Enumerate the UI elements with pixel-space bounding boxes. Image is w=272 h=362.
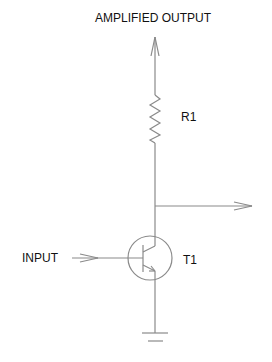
input-arrow xyxy=(72,254,143,262)
schematic-drawing xyxy=(0,0,272,362)
resistor-label: R1 xyxy=(181,111,196,123)
output-label: AMPLIFIED OUTPUT xyxy=(95,12,211,24)
output-branch-arrow xyxy=(155,202,252,210)
transistor-label: T1 xyxy=(183,254,197,266)
circuit-diagram: AMPLIFIED OUTPUT R1 T1 INPUT xyxy=(0,0,272,362)
resistor-r1 xyxy=(150,95,160,143)
input-label: INPUT xyxy=(22,252,58,264)
ground-symbol xyxy=(142,333,168,341)
output-arrow xyxy=(151,37,159,95)
